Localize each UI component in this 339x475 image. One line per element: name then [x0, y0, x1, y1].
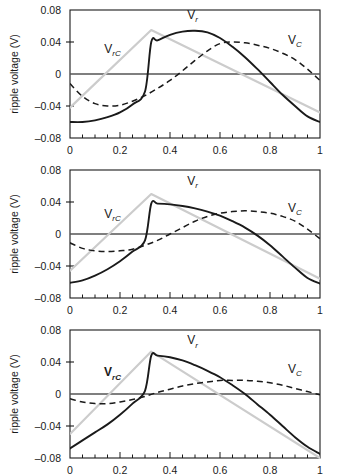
curve-label-vr: Vr: [187, 174, 198, 190]
figure-container: 0.080.040–0.04–0.0800.20.40.60.81ripple …: [0, 0, 339, 475]
curve-label-vc: VC: [288, 33, 302, 49]
y-axis: 0.080.040–0.04–0.08: [35, 164, 74, 304]
y-tick-label: –0.04: [35, 420, 61, 432]
y-tick-label: –0.08: [35, 452, 61, 464]
x-axis: 00.20.40.60.81: [67, 292, 323, 316]
y-axis-title: ripple voltage (V): [8, 354, 20, 433]
y-tick-label: –0.04: [35, 260, 61, 272]
chart-svg-2: 0.080.040–0.04–0.0800.20.40.60.81ripple …: [0, 320, 339, 475]
annotations: VrCVrVC: [104, 8, 302, 59]
x-tick-label: 1: [317, 144, 323, 156]
x-tick-label: 0: [67, 304, 73, 316]
x-tick-label: 1: [317, 304, 323, 316]
x-tick-label: 0.4: [163, 304, 178, 316]
x-tick-label: 0.8: [263, 464, 278, 475]
x-tick-label: 0: [67, 144, 73, 156]
x-axis: 00.20.40.60.81: [67, 132, 323, 156]
y-tick-label: 0.04: [41, 356, 62, 368]
y-tick-label: –0.08: [35, 132, 61, 144]
y-tick-label: 0.08: [41, 4, 62, 16]
y-axis-title: ripple voltage (V): [8, 34, 20, 113]
chart-panel-1: 0.080.040–0.04–0.0800.20.40.60.81ripple …: [0, 160, 339, 320]
y-axis: 0.080.040–0.04–0.08: [35, 4, 74, 144]
x-tick-label: 1: [317, 464, 323, 475]
y-axis-title: ripple voltage (V): [8, 194, 20, 273]
chart-panel-2: 0.080.040–0.04–0.0800.20.40.60.81ripple …: [0, 320, 339, 475]
x-tick-label: 0.8: [263, 304, 278, 316]
x-tick-label: 0.6: [213, 144, 228, 156]
chart-panel-0: 0.080.040–0.04–0.0800.20.40.60.81ripple …: [0, 0, 339, 160]
y-tick-label: 0: [55, 228, 61, 240]
x-tick-label: 0.4: [163, 464, 178, 475]
chart-svg-0: 0.080.040–0.04–0.0800.20.40.60.81ripple …: [0, 0, 339, 160]
x-tick-label: 0.6: [213, 304, 228, 316]
y-tick-label: 0.08: [41, 324, 62, 336]
y-tick-label: 0.04: [41, 36, 62, 48]
x-tick-label: 0.2: [113, 464, 128, 475]
y-tick-label: 0: [55, 68, 61, 80]
annotations: VrCVrVC: [104, 174, 302, 223]
y-tick-label: 0.08: [41, 164, 62, 176]
y-tick-label: 0: [55, 388, 61, 400]
x-tick-label: 0.2: [113, 144, 128, 156]
y-axis: 0.080.040–0.04–0.08: [35, 324, 74, 464]
curve-label-vrc: VrC: [104, 42, 121, 58]
x-tick-label: 0: [67, 464, 73, 475]
x-tick-label: 0.6: [213, 464, 228, 475]
curve-label-vc: VC: [288, 362, 302, 378]
y-tick-label: –0.04: [35, 100, 61, 112]
x-axis: 00.20.40.60.81: [67, 452, 323, 475]
x-tick-label: 0.2: [113, 304, 128, 316]
x-tick-label: 0.4: [163, 144, 178, 156]
x-tick-label: 0.8: [263, 144, 278, 156]
chart-svg-1: 0.080.040–0.04–0.0800.20.40.60.81ripple …: [0, 160, 339, 320]
curve-label-vrc: VrC: [104, 207, 121, 223]
y-tick-label: –0.08: [35, 292, 61, 304]
curve-label-vr: Vr: [187, 333, 198, 349]
y-tick-label: 0.04: [41, 196, 62, 208]
curve-v-c: [70, 380, 320, 404]
curve-label-vc: VC: [288, 201, 302, 217]
curve-label-vrc: VrC: [104, 365, 121, 381]
annotations: VrCVrVC: [104, 333, 302, 381]
